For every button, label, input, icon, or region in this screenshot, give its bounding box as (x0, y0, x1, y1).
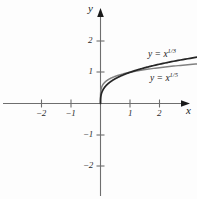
y-tick-label-1: 1 (89, 67, 94, 76)
figure-container: −2 −1 1 2 2 1 −1 −2 y x y = x1/3 y = x1/… (0, 0, 197, 199)
y-tick-label--2: −2 (83, 161, 93, 170)
x-tick-label-2: 2 (157, 109, 162, 118)
y-tick-label--1: −1 (83, 130, 93, 139)
function-plot (0, 0, 197, 199)
curve-label-1-exponent: 1/3 (168, 47, 176, 54)
curve-label-x-pow-1-3: y = x1/3 (148, 48, 176, 60)
axis-lines (3, 14, 184, 196)
curves (101, 57, 198, 104)
curve-label-x-pow-1-5: y = x1/5 (150, 72, 178, 84)
x-tick-label--2: −2 (36, 109, 46, 118)
axis-arrowheads (97, 8, 190, 107)
y-axis-arrow-icon (97, 8, 104, 17)
x-axis-label: x (186, 105, 191, 116)
y-axis-label: y (88, 3, 93, 14)
curve-x-pow-1-5 (101, 64, 198, 104)
curve-label-2-base: y = x (150, 73, 170, 83)
x-tick-label-1: 1 (128, 109, 133, 118)
curve-label-1-base: y = x (148, 49, 168, 59)
curve-label-2-exponent: 1/5 (170, 71, 178, 78)
curve-x-pow-1-3 (101, 57, 198, 104)
y-tick-label-2: 2 (88, 36, 93, 45)
x-tick-label--1: −1 (66, 109, 76, 118)
